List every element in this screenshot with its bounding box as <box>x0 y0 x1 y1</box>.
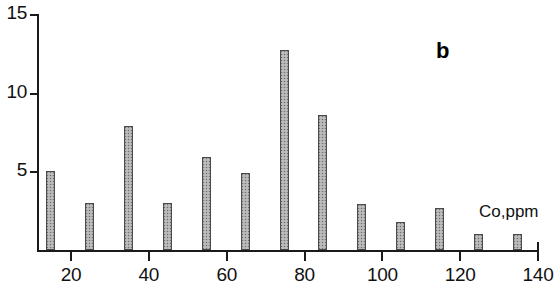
x-axis-tick <box>459 252 461 261</box>
x-axis-tick-label: 80 <box>279 264 331 286</box>
histogram-bar <box>241 173 250 250</box>
y-axis-tick-label: 15 <box>0 2 27 24</box>
histogram-bar <box>85 203 94 250</box>
histogram-bar <box>163 203 172 250</box>
histogram-bar <box>280 50 289 250</box>
x-axis-tick <box>304 252 306 261</box>
x-axis-spine <box>37 250 539 252</box>
y-axis-tick-label: 10 <box>0 81 27 103</box>
histogram-bar <box>202 157 211 250</box>
x-axis-tick-label: 60 <box>201 264 253 286</box>
x-axis-end-cap <box>537 242 539 252</box>
y-axis-tick-label: 5 <box>0 159 27 181</box>
histogram-bar <box>318 115 327 250</box>
x-axis-tick <box>381 252 383 261</box>
x-axis-tick-label: 100 <box>356 264 408 286</box>
histogram-bar <box>474 234 483 250</box>
x-axis-tick <box>537 252 539 261</box>
histogram-bar <box>124 126 133 250</box>
x-axis-tick-label: 40 <box>123 264 175 286</box>
y-axis-tick <box>30 93 38 95</box>
x-axis-label: Co,ppm <box>479 202 539 222</box>
histogram-bar <box>435 208 444 250</box>
y-axis-spine <box>37 14 39 252</box>
histogram-bar <box>513 234 522 250</box>
histogram-figure: 5101520406080100120140Co,ppmb <box>0 0 560 293</box>
histogram-bar <box>46 171 55 250</box>
x-axis-tick <box>148 252 150 261</box>
histogram-bar <box>357 204 366 250</box>
histogram-bar <box>396 222 405 250</box>
x-axis-tick-label: 20 <box>45 264 97 286</box>
x-axis-tick-label: 120 <box>434 264 486 286</box>
x-axis-tick <box>70 252 72 261</box>
y-axis-tick <box>30 171 38 173</box>
x-axis-tick <box>226 252 228 261</box>
y-axis-tick <box>30 14 38 16</box>
panel-label: b <box>436 38 449 64</box>
x-axis-tick-label: 140 <box>512 264 560 286</box>
